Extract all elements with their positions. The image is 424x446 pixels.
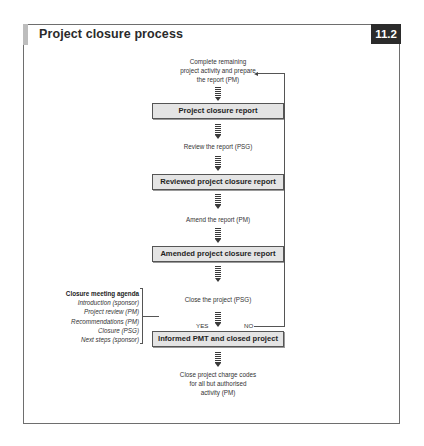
no-feedback-line-horizontal-top	[258, 73, 285, 74]
agenda-item: Closure (PSG)	[38, 326, 139, 335]
down-arrow-icon	[215, 194, 221, 209]
step-line: Review the report (PSG)	[138, 143, 298, 152]
agenda-item: Next steps (sponsor)	[38, 335, 139, 344]
step-line: Close the project (PSG)	[138, 296, 298, 305]
agenda-connector-line	[143, 316, 159, 317]
step-close-project: Close the project (PSG)	[138, 296, 298, 305]
step-close-charge-codes: Close project charge codes for all but a…	[138, 371, 298, 397]
down-arrow-icon	[215, 266, 221, 282]
feedback-arrowhead-icon	[254, 72, 258, 76]
agenda-item: Introduction (sponsor)	[38, 298, 139, 307]
down-arrow-icon	[215, 87, 221, 101]
closure-meeting-agenda: Closure meeting agenda Introduction (spo…	[38, 289, 139, 344]
figure-number-badge: 11.2	[371, 24, 401, 44]
step-line: activity (PM)	[138, 389, 298, 398]
step-line: Close project charge codes	[138, 371, 298, 380]
no-feedback-line-horizontal-bottom	[254, 326, 285, 327]
step-line: Complete remaining	[138, 58, 298, 67]
down-arrow-icon	[215, 124, 221, 139]
decision-yes-label: YES	[196, 322, 208, 329]
agenda-item: Project review (PM)	[38, 307, 139, 316]
agenda-heading: Closure meeting agenda	[38, 289, 139, 298]
output-amended-report: Amended project closure report	[152, 246, 284, 262]
no-feedback-line-vertical	[284, 73, 285, 327]
down-arrow-icon	[215, 156, 221, 171]
step-line: for all but authorised	[138, 380, 298, 389]
output-reviewed-report: Reviewed project closure report	[152, 174, 284, 190]
step-line: the report (PM)	[138, 76, 298, 85]
step-line: project activity and prepare	[138, 67, 298, 76]
figure-title: Project closure process	[39, 27, 183, 41]
agenda-item: Recommendations (PM)	[38, 317, 139, 326]
decision-no-label: NO	[244, 322, 253, 329]
down-arrow-icon	[215, 352, 221, 367]
title-accent-bar	[23, 24, 28, 45]
step-amend-report: Amend the report (PM)	[138, 216, 298, 225]
step-line: Amend the report (PM)	[138, 216, 298, 225]
down-arrow-icon	[215, 228, 221, 243]
output-project-closure-report: Project closure report	[152, 103, 284, 119]
step-review-report: Review the report (PSG)	[138, 143, 298, 152]
down-arrow-icon	[215, 312, 221, 327]
step-complete-activity: Complete remaining project activity and …	[138, 58, 298, 84]
output-informed-pmt-closed-project: Informed PMT and closed project	[152, 331, 284, 347]
